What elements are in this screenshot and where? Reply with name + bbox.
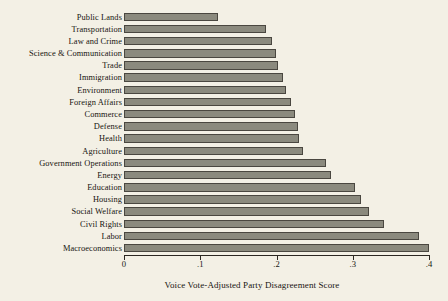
bar-category-label: Public Lands — [77, 13, 122, 21]
bar — [124, 86, 286, 94]
bar-row: Public Lands — [0, 12, 448, 24]
bar — [124, 232, 419, 240]
bar-row: Foreign Affairs — [0, 97, 448, 109]
bar-row: Commerce — [0, 109, 448, 121]
bar-row: Transportation — [0, 24, 448, 36]
bar — [124, 183, 355, 191]
bar-category-label: Energy — [97, 172, 122, 180]
bar — [124, 73, 283, 81]
bar-category-label: Defense — [94, 123, 122, 131]
bar-row: Macroeconomics — [0, 243, 448, 255]
bar-row: Law and Crime — [0, 36, 448, 48]
x-axis-tick-label: .4 — [426, 260, 432, 269]
bar — [124, 171, 331, 179]
bar-row: Government Operations — [0, 158, 448, 170]
x-axis-tick-label: .2 — [273, 260, 279, 269]
bar-category-label: Civil Rights — [80, 220, 122, 228]
bar-category-label: Science & Communication — [29, 50, 122, 58]
bar-category-label: Macroeconomics — [63, 245, 122, 253]
bar-category-label: Law and Crime — [69, 38, 122, 46]
bar-category-label: Health — [99, 135, 122, 143]
bar-row: Civil Rights — [0, 219, 448, 231]
bar — [124, 147, 303, 155]
bar — [124, 37, 272, 45]
bar-row: Health — [0, 133, 448, 145]
bar-category-label: Education — [87, 184, 122, 192]
bar-category-label: Agriculture — [82, 147, 122, 155]
bar-category-label: Trade — [102, 62, 122, 70]
bar-row: Immigration — [0, 72, 448, 84]
bar-row: Science & Communication — [0, 48, 448, 60]
bar — [124, 25, 266, 33]
bar-row: Social Welfare — [0, 206, 448, 218]
bar-category-label: Social Welfare — [71, 208, 122, 216]
bar-category-label: Housing — [93, 196, 122, 204]
bar — [124, 207, 369, 215]
bar-category-label: Commerce — [84, 111, 122, 119]
bar — [124, 159, 326, 167]
bar — [124, 244, 429, 252]
x-axis-tick-label: .3 — [350, 260, 356, 269]
bar-row: Energy — [0, 170, 448, 182]
bar-row: Education — [0, 182, 448, 194]
x-axis-title-text: Voice Vote-Adjusted Party Disagreement S… — [165, 280, 340, 290]
bar — [124, 110, 295, 118]
bar — [124, 13, 218, 21]
bar-row: Agriculture — [0, 145, 448, 157]
bar-category-label: Transportation — [72, 26, 122, 34]
bar — [124, 195, 361, 203]
bar-category-label: Immigration — [79, 74, 122, 82]
bar-row: Labor — [0, 231, 448, 243]
x-axis-tick-label: .1 — [197, 260, 203, 269]
bar — [124, 49, 276, 57]
bar-category-label: Environment — [77, 86, 122, 94]
bar-row: Trade — [0, 60, 448, 72]
bar-row: Defense — [0, 121, 448, 133]
bar-category-label: Foreign Affairs — [69, 99, 122, 107]
bar-chart: Public LandsTransportationLaw and CrimeS… — [0, 0, 448, 301]
bar-category-label: Government Operations — [39, 160, 122, 168]
bar — [124, 134, 299, 142]
x-axis-title: Voice Vote-Adjusted Party Disagreement S… — [0, 280, 448, 290]
bar-row: Environment — [0, 85, 448, 97]
bar — [124, 61, 278, 69]
x-axis-tick-label: 0 — [122, 260, 126, 269]
bar-category-label: Labor — [102, 233, 123, 241]
bar-row: Housing — [0, 194, 448, 206]
bar — [124, 122, 298, 130]
bar — [124, 220, 384, 228]
bar — [124, 98, 291, 106]
